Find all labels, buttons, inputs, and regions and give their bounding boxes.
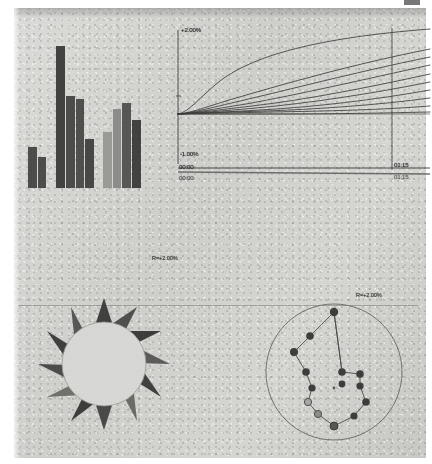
- x-axis-start-label-secondary: 00:00: [179, 174, 193, 181]
- polar-point: [362, 398, 370, 406]
- bar-item: [132, 120, 141, 188]
- y-axis-bottom-label: -1.00%: [180, 150, 198, 157]
- bar-item: [28, 147, 37, 188]
- sheet-top-shadow: [14, 8, 426, 18]
- polar-point: [330, 308, 338, 316]
- bar-item: [56, 46, 65, 188]
- scanned-chart-page: +2.00% -1.00% 00:00 00:00 01:15 01:15: [0, 0, 432, 464]
- line-chart-panel: +2.00% -1.00% 00:00 00:00 01:15 01:15: [164, 22, 432, 190]
- bar-item: [113, 109, 121, 188]
- polar-point: [356, 370, 364, 378]
- polar-center-marker: [333, 387, 336, 390]
- y-axis-top-label: +2.00%: [181, 26, 201, 33]
- bar-item: [85, 139, 94, 188]
- bar-item: [103, 132, 112, 188]
- corner-scan-mark: [404, 0, 420, 5]
- polar-point: [306, 332, 314, 340]
- polar-point: [330, 422, 338, 430]
- polar-point: [338, 368, 346, 376]
- polar-point: [304, 398, 311, 405]
- bar-item: [66, 96, 75, 188]
- x-axis-start-label: 00:00: [179, 163, 193, 170]
- x-axis-end-label-secondary: 01:15: [394, 173, 408, 180]
- polar-point: [339, 381, 346, 388]
- sunburst-annotation: R=+2.00%: [152, 255, 178, 261]
- bar-chart-panel: [26, 40, 146, 188]
- polar-scatter-svg: [250, 296, 415, 444]
- polar-outer-circle: [266, 304, 402, 440]
- sunburst-svg: [34, 296, 174, 431]
- polar-point: [314, 410, 321, 417]
- bar-item: [122, 103, 131, 188]
- x-axis-end-label: 01:15: [394, 161, 408, 168]
- sheet-left-highlight: [14, 8, 21, 458]
- line-chart-svg: [164, 22, 432, 190]
- sunburst-panel: [34, 296, 174, 431]
- polar-point: [290, 348, 298, 356]
- sunburst-inner-circle: [62, 322, 146, 406]
- polar-point: [350, 412, 357, 419]
- polar-point: [308, 384, 315, 391]
- polar-point: [302, 368, 310, 376]
- bar-item: [38, 157, 46, 188]
- polar-annotation: R=+2.00%: [356, 292, 382, 298]
- paper-sheet: +2.00% -1.00% 00:00 00:00 01:15 01:15: [14, 8, 426, 458]
- bar-item: [76, 99, 84, 188]
- bar-chart-plot: [26, 40, 146, 188]
- polar-scatter-panel: [250, 296, 415, 444]
- polar-point: [356, 382, 363, 389]
